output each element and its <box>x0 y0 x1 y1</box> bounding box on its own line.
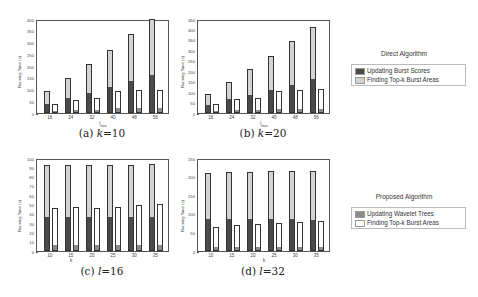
y-tick-label: 50 <box>179 231 195 236</box>
bar-proposed <box>52 208 58 251</box>
plot-area <box>36 159 169 252</box>
bar-segment-wavelet <box>319 247 323 250</box>
y-tick-label: 200 <box>179 70 195 75</box>
y-tick-label: 150 <box>179 80 195 85</box>
bar-proposed <box>157 90 163 114</box>
bar-proposed <box>297 222 303 251</box>
y-tick-label: 70 <box>18 184 34 189</box>
legend-box: Updating Burst Scores Finding Top-k Burs… <box>351 64 466 86</box>
legend-label: Updating Wavelet Trees <box>367 210 434 217</box>
bar-segment-wavelet <box>298 109 302 112</box>
y-tick-label: 200 <box>179 175 195 180</box>
caption-eq: =16 <box>101 265 123 277</box>
y-axis-label: Running Time (s) <box>17 56 22 88</box>
bar-segment-wavelet <box>95 245 99 250</box>
bar-segment-burst-scores <box>248 95 252 112</box>
y-tick-label: 450 <box>179 18 195 23</box>
caption-label: (a) <box>79 127 97 139</box>
bar-segment-wavelet <box>116 245 120 250</box>
plot-area <box>36 20 169 114</box>
bar-direct <box>205 94 211 113</box>
bar-segment-burst-scores <box>290 85 294 112</box>
y-tick-label: 250 <box>18 53 34 58</box>
y-tick-label: 0 <box>18 250 34 255</box>
y-tick-label: 50 <box>179 101 195 106</box>
y-tick-label: 50 <box>18 100 34 105</box>
x-axis-label-main: k <box>263 258 265 263</box>
bar-segment-wavelet <box>53 245 57 250</box>
x-tick-label: 10 <box>203 253 219 258</box>
bar-direct <box>107 50 113 113</box>
bar-proposed <box>276 223 282 251</box>
bar-segment-burst-scores <box>248 219 252 250</box>
bar-direct <box>149 19 155 113</box>
bar-segment-burst-scores <box>45 104 49 112</box>
bar-segment-burst-scores <box>87 217 91 250</box>
bar-segment-wavelet <box>277 109 281 112</box>
y-tick-mark <box>36 114 38 115</box>
bar-proposed <box>136 205 142 251</box>
x-axis-label-main: k <box>70 258 72 263</box>
y-tick-label: 0 <box>18 112 34 117</box>
caption-b: (b) k=20 <box>203 127 323 139</box>
caption-eq: =32 <box>263 265 285 277</box>
x-tick-label: 16 <box>203 115 219 120</box>
bar-segment-wavelet <box>319 109 323 112</box>
bar-segment-wavelet <box>298 247 302 250</box>
bar-segment-burst-scores <box>227 99 231 112</box>
bar-direct <box>268 171 274 251</box>
x-tick-label: 48 <box>287 115 303 120</box>
bar-segment-wavelet <box>137 108 141 112</box>
x-tick-label: 32 <box>84 115 100 120</box>
y-tick-label: 250 <box>179 59 195 64</box>
bar-proposed <box>276 91 282 113</box>
legend-item-wavelet: Updating Wavelet Trees <box>355 210 434 218</box>
x-tick-label: 48 <box>126 115 142 120</box>
bar-proposed <box>255 224 261 251</box>
caption-d: (d) l=32 <box>203 265 323 277</box>
y-tick-label: 100 <box>179 91 195 96</box>
caption-label: (d) <box>241 265 259 277</box>
swatch-light-icon <box>355 77 365 84</box>
bar-segment-burst-scores <box>45 217 49 250</box>
bar-segment-burst-scores <box>108 217 112 250</box>
x-tick-label: 30 <box>126 253 142 258</box>
bar-proposed <box>157 204 163 251</box>
bar-direct <box>205 173 211 251</box>
y-tick-label: 40 <box>18 212 34 217</box>
bar-direct <box>226 82 232 113</box>
x-tick-label: 24 <box>224 115 240 120</box>
y-tick-label: 60 <box>18 194 34 199</box>
bar-direct <box>86 64 92 113</box>
bar-segment-burst-scores <box>269 219 273 250</box>
bar-segment-wavelet <box>53 111 57 112</box>
bar-segment-wavelet <box>214 247 218 250</box>
bar-segment-wavelet <box>116 108 120 112</box>
bar-segment-wavelet <box>158 245 162 250</box>
bar-segment-wavelet <box>95 110 99 112</box>
bar-proposed <box>297 90 303 113</box>
legend-item-burst-scores: Updating Burst Scores <box>355 67 430 75</box>
legend-title: Direct Algorithm <box>330 50 478 57</box>
swatch-dark-icon <box>355 68 365 75</box>
y-tick-label: 30 <box>18 222 34 227</box>
bar-direct <box>289 41 295 113</box>
y-tick-label: 50 <box>18 203 34 208</box>
y-tick-label: 300 <box>179 49 195 54</box>
bar-direct <box>65 78 71 113</box>
y-tick-label: 300 <box>18 41 34 46</box>
bar-segment-burst-scores <box>129 81 133 112</box>
bar-proposed <box>73 207 79 251</box>
caption-label: (b) <box>240 127 258 139</box>
swatch-white-icon <box>355 220 365 227</box>
bar-segment-burst-scores <box>150 75 154 112</box>
bar-proposed <box>234 225 240 251</box>
y-tick-mark <box>197 114 199 115</box>
x-tick-label: 56 <box>147 115 163 120</box>
bar-direct <box>149 164 155 251</box>
y-tick-label: 100 <box>179 212 195 217</box>
bar-proposed <box>318 221 324 251</box>
bar-proposed <box>115 207 121 251</box>
y-tick-mark <box>36 252 38 253</box>
bar-direct <box>310 171 316 251</box>
